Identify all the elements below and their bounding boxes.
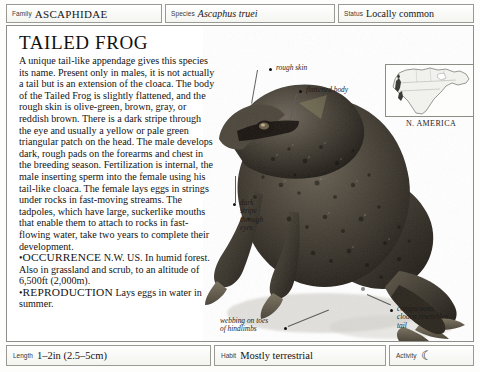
callout-webbing-toes: webbing on toes of hindlimbs (220, 317, 268, 334)
field-species-value: Ascaphus truei (198, 8, 258, 19)
field-family-value: ASCAPHIDAE (35, 8, 108, 20)
callout-dot-dark-stripe (233, 203, 236, 206)
callout-rough-skin: rough skin (276, 64, 307, 72)
map-caption: N. AMERICA (385, 119, 474, 128)
field-guide-page: Family ASCAPHIDAE Species Ascaphus truei… (0, 0, 480, 372)
bullet-reproduction: •REPRODUCTION Lays eggs in water in summ… (19, 287, 215, 310)
callout-dot-rough-skin (269, 68, 272, 71)
field-length-value: 1–2in (2.5–5cm) (37, 350, 107, 361)
field-activity: Activity ☾ (389, 345, 474, 366)
field-habit-value: Mostly terrestrial (240, 350, 313, 361)
field-habit: Habit Mostly terrestrial (214, 345, 386, 366)
callout-line-dark-stripe (235, 176, 236, 203)
crescent-moon-icon: ☾ (421, 349, 433, 362)
north-america-map-svg (386, 65, 474, 116)
article-paragraph: A unique tail-like appendage gives this … (19, 55, 215, 252)
field-status-value: Locally common (366, 8, 434, 19)
bullet-heading-reproduction: REPRODUCTION (23, 286, 113, 298)
bullet-occurrence: •OCCURRENCE N.W. US. In humid forest. Al… (19, 252, 215, 287)
page-title: TAILED FROG (19, 32, 148, 54)
field-family: Family ASCAPHIDAE (6, 4, 162, 23)
callout-dot-flattened-body (299, 90, 302, 93)
callout-dot-cloaca (390, 309, 393, 312)
field-species-label: Species (166, 10, 198, 17)
field-family-label: Family (7, 10, 35, 17)
content-panel: N. AMERICA TAILED FROG A unique tail-lik… (6, 25, 474, 342)
field-status-label: Status (339, 10, 366, 17)
footer-bar: Length 1–2in (2.5–5cm) Habit Mostly terr… (6, 345, 474, 366)
field-status: Status Locally common (338, 4, 474, 23)
callout-dot-webbing-toes (284, 327, 287, 330)
field-length-label: Length (7, 352, 37, 359)
callout-flattened-body: flattened body (306, 86, 348, 94)
field-habit-label: Habit (215, 352, 240, 359)
range-map (385, 64, 474, 117)
field-length: Length 1–2in (2.5–5cm) (6, 345, 211, 366)
article-text: A unique tail-like appendage gives this … (19, 55, 215, 310)
callout-conspicuous-cloaca: conspicuous cloaca resembles tail (397, 305, 448, 330)
field-species: Species Ascaphus truei (165, 4, 335, 23)
callout-dark-stripe: dark stripe through eyes (240, 199, 263, 233)
bullet-heading-occurrence: OCCURRENCE (23, 251, 102, 263)
header-bar: Family ASCAPHIDAE Species Ascaphus truei… (6, 4, 474, 23)
field-activity-label: Activity (390, 352, 421, 359)
